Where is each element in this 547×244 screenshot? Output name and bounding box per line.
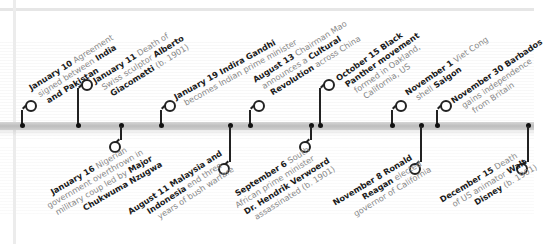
timeline-bar-shadow xyxy=(0,130,534,136)
pin-dot-icon xyxy=(435,123,440,128)
pin-ring-icon xyxy=(395,100,407,112)
pin-ring-icon xyxy=(440,100,452,112)
pin-dot-icon xyxy=(390,123,395,128)
pin-stem xyxy=(77,88,79,125)
pin-dot-icon xyxy=(20,123,25,128)
pin-stem xyxy=(229,126,231,162)
pin-dot-icon xyxy=(248,123,253,128)
pin-stem xyxy=(120,126,122,140)
pin-ring-icon xyxy=(253,100,265,112)
pin-stem xyxy=(310,126,312,140)
pin-stem xyxy=(319,88,321,125)
pin-dot-icon xyxy=(159,123,164,128)
pin-dot-icon xyxy=(318,123,323,128)
pin-ring-icon xyxy=(25,100,37,112)
pin-ring-icon xyxy=(164,100,176,112)
pin-dot-icon xyxy=(76,123,81,128)
top-rule xyxy=(0,8,534,11)
pin-ring-icon xyxy=(323,79,335,91)
